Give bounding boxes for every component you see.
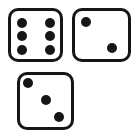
pip: [54, 112, 64, 122]
die-six[interactable]: [8, 8, 63, 62]
pip: [17, 31, 27, 41]
die-three[interactable]: [17, 72, 74, 130]
pip: [41, 95, 51, 105]
pip: [17, 18, 27, 28]
pip: [45, 18, 55, 28]
pip: [81, 17, 91, 27]
dice-area: [0, 0, 139, 139]
die-two[interactable]: [72, 8, 131, 62]
pip: [45, 45, 55, 55]
pip: [17, 45, 27, 55]
pip: [45, 31, 55, 41]
pip: [107, 43, 117, 53]
pip: [23, 78, 33, 88]
